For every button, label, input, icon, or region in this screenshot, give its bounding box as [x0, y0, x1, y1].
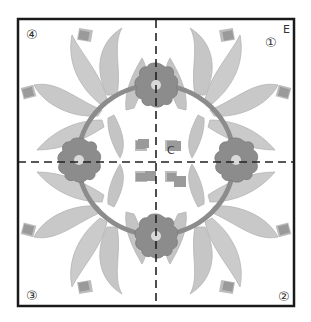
quadrant-label-4: ④	[26, 28, 38, 41]
quadrant-label-1: ①	[265, 36, 277, 49]
flower-left	[58, 138, 101, 182]
quadrant-label-2: ②	[278, 290, 290, 303]
flower-right	[215, 138, 258, 182]
quadrant-label-3: ③	[26, 289, 38, 302]
quilt-block-diagram: ④ ① ③ ② E C	[0, 0, 311, 322]
center-marker-label: C	[167, 145, 175, 156]
edge-marker-label: E	[283, 24, 290, 35]
spray-q4	[21, 28, 147, 158]
